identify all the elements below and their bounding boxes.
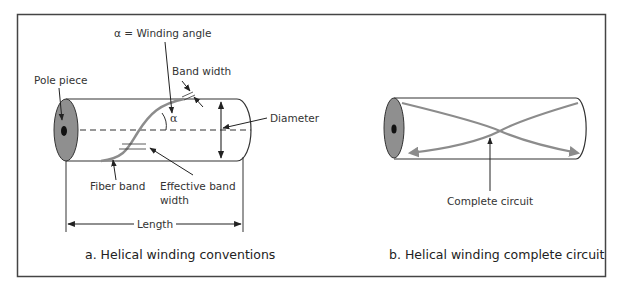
- band-width-arrow-top: [182, 81, 190, 91]
- effective-band-width-label-line2: width: [160, 194, 189, 206]
- pole-piece-hole: [61, 126, 67, 136]
- complete-circuit-label: Complete circuit: [447, 195, 533, 207]
- diameter-label: Diameter: [270, 112, 320, 124]
- alpha-symbol: α: [170, 112, 178, 125]
- fiber-band-leader: [113, 160, 116, 180]
- panel-b: Complete circuit b. Helical winding comp…: [384, 98, 605, 262]
- panel-a-caption: a. Helical winding conventions: [85, 247, 275, 262]
- panel-b-caption: b. Helical winding complete circuit: [389, 247, 605, 262]
- panel-a: α α = Winding angle Band width Pole piec…: [34, 27, 320, 262]
- effective-band-width-label-line1: Effective band: [160, 180, 236, 192]
- pole-piece-hole-b: [391, 125, 396, 134]
- length-label: Length: [137, 218, 173, 230]
- fiber-band-label: Fiber band: [90, 180, 145, 192]
- helical-winding-figure: α α = Winding angle Band width Pole piec…: [0, 0, 622, 292]
- band-width-label: Band width: [172, 65, 231, 77]
- winding-angle-label: α = Winding angle: [114, 27, 212, 39]
- pole-piece-label: Pole piece: [34, 74, 87, 86]
